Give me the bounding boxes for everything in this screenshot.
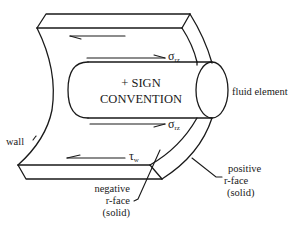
arrow-tau-wall [67, 155, 125, 158]
arrow-sigma-bottom [90, 124, 165, 127]
sigma-rz-top-label: σrz [168, 49, 180, 64]
wall-label: wall [6, 136, 24, 147]
fluid-element-cylinder [68, 62, 228, 118]
fluid-element-label: fluid element [232, 86, 288, 97]
cylinder-label-line1: + SIGN [121, 76, 160, 90]
tau-w-label: τw [129, 149, 140, 164]
positive-face-label-line1: positive [228, 163, 262, 174]
leader-positive-face [192, 158, 222, 177]
cylinder-label-line2: CONVENTION [100, 92, 182, 106]
arrow-sigma-top [87, 55, 165, 58]
upper-wall [37, 14, 212, 63]
arrow-upper-wall-left [70, 36, 125, 39]
negative-face-label-line3: (solid) [103, 207, 131, 219]
leader-wall [33, 136, 36, 140]
negative-face-label-line2: r-face [106, 195, 131, 206]
negative-face-label-line1: negative [94, 183, 130, 194]
positive-face-label-line2: r-face [224, 175, 249, 186]
positive-face-label-line3: (solid) [227, 187, 255, 199]
sign-convention-diagram: + SIGN CONVENTION σrz σrz τw fluid eleme… [0, 0, 299, 230]
sigma-rz-bottom-label: σrz [168, 117, 180, 132]
